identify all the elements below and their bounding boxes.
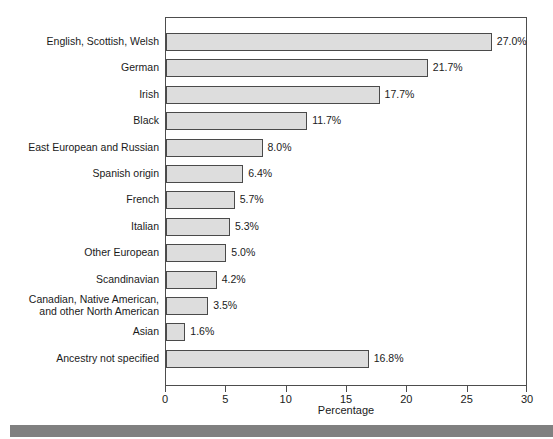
bar <box>166 244 226 262</box>
bar-value-label: 1.6% <box>190 322 214 341</box>
bar <box>166 191 235 209</box>
category-label: English, Scottish, Welsh <box>8 35 159 47</box>
bar-value-label: 16.8% <box>374 349 404 368</box>
bar-value-label: 8.0% <box>268 138 292 157</box>
bar-value-label: 11.7% <box>312 111 341 130</box>
bar-value-label: 5.0% <box>231 243 255 262</box>
bar-row: 4.2% <box>166 267 528 293</box>
bar-row: 11.7% <box>166 108 528 134</box>
bar-value-label: 5.3% <box>235 217 259 236</box>
chart-figure: 27.0%21.7%17.7%11.7%8.0%6.4%5.7%5.3%5.0%… <box>0 0 553 439</box>
x-tick-mark <box>406 386 407 392</box>
bar <box>166 297 208 315</box>
x-tick-mark <box>526 386 527 392</box>
category-label: Black <box>8 114 159 126</box>
bar-value-label: 3.5% <box>213 296 237 315</box>
bar-row: 17.7% <box>166 82 528 108</box>
bar-row: 21.7% <box>166 55 528 81</box>
x-tick-mark <box>225 386 226 392</box>
bar-value-label: 21.7% <box>433 58 463 77</box>
bar <box>166 112 307 130</box>
category-label: Irish <box>8 88 159 100</box>
bar <box>166 165 243 183</box>
x-tick-mark <box>165 386 166 392</box>
x-tick-mark <box>286 386 287 392</box>
category-label: Scandinavian <box>8 273 159 285</box>
bar-row: 5.0% <box>166 240 528 266</box>
bar-row: 6.4% <box>166 161 528 187</box>
bar-value-label: 4.2% <box>222 270 246 289</box>
bar <box>166 33 492 51</box>
plot-area: 27.0%21.7%17.7%11.7%8.0%6.4%5.7%5.3%5.0%… <box>165 17 527 386</box>
bar-value-label: 17.7% <box>385 85 415 104</box>
category-label: French <box>8 193 159 205</box>
bar <box>166 350 369 368</box>
category-label: East European and Russian <box>8 141 159 153</box>
bar <box>166 139 263 157</box>
category-label: Ancestry not specified <box>8 352 159 364</box>
bar-row: 1.6% <box>166 319 528 345</box>
category-label: Canadian, Native American, and other Nor… <box>8 293 159 317</box>
footer-band <box>10 425 553 437</box>
bar <box>166 59 428 77</box>
category-label: Spanish origin <box>8 167 159 179</box>
x-axis-title: Percentage <box>165 404 527 416</box>
bar <box>166 218 230 236</box>
category-label: Italian <box>8 220 159 232</box>
bar-row: 8.0% <box>166 135 528 161</box>
x-tick-mark <box>467 386 468 392</box>
bar-row: 3.5% <box>166 293 528 319</box>
bar <box>166 86 380 104</box>
bar-row: 16.8% <box>166 346 528 372</box>
bar <box>166 323 185 341</box>
bar-row: 5.3% <box>166 214 528 240</box>
x-tick-mark <box>346 386 347 392</box>
category-label: Other European <box>8 246 159 258</box>
bar-value-label: 27.0% <box>497 32 527 51</box>
bar <box>166 271 217 289</box>
category-label: German <box>8 61 159 73</box>
bar-row: 5.7% <box>166 187 528 213</box>
bar-row: 27.0% <box>166 29 528 55</box>
category-label: Asian <box>8 325 159 337</box>
bar-value-label: 5.7% <box>240 190 264 209</box>
bar-value-label: 6.4% <box>248 164 272 183</box>
